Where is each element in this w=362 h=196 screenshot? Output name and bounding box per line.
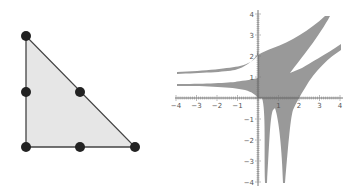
x-tick-label: −3 (191, 102, 201, 110)
triangle-diagram (21, 31, 140, 152)
y-tick-label: −3 (244, 158, 254, 166)
x-tick-label: 4 (338, 102, 343, 110)
y-tick-label: −2 (244, 137, 254, 145)
triangle-node (75, 142, 85, 152)
y-tick-label: 1 (250, 74, 254, 82)
x-tick-label: 1 (276, 102, 280, 110)
triangle-node (21, 31, 31, 41)
triangle-node (21, 142, 31, 152)
y-tick-label: −1 (244, 116, 254, 124)
figure: −4−3−2−112344321−1−2−3−4 (0, 0, 362, 196)
y-tick-label: 2 (250, 53, 254, 61)
x-tick-label: 3 (317, 102, 321, 110)
y-tick-label: 3 (250, 32, 254, 40)
y-tick-label: 4 (250, 11, 255, 19)
triangle-node (130, 142, 140, 152)
triangle-node (21, 87, 31, 97)
x-tick-label: −2 (212, 102, 222, 110)
x-tick-label: −1 (232, 102, 242, 110)
triangle-node (75, 87, 85, 97)
y-tick-label: −4 (244, 179, 255, 187)
x-tick-label: −4 (171, 102, 182, 110)
x-tick-label: 2 (297, 102, 301, 110)
plot: −4−3−2−112344321−1−2−3−4 (171, 10, 343, 187)
